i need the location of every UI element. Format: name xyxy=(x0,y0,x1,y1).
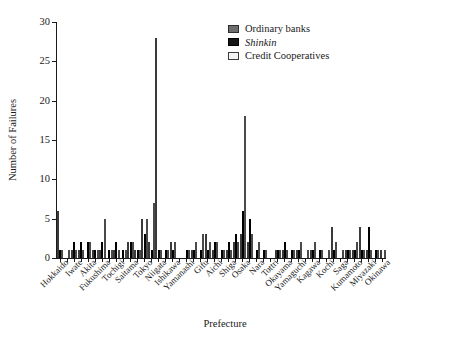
legend-label-ordinary-banks: Ordinary banks xyxy=(245,22,310,36)
bar xyxy=(212,250,214,258)
bar xyxy=(242,211,244,258)
bar xyxy=(174,242,176,258)
y-tick-label: 5 xyxy=(45,213,50,224)
bar xyxy=(92,250,94,258)
bar xyxy=(94,250,96,258)
bar xyxy=(265,250,267,258)
bar xyxy=(195,242,197,258)
bar xyxy=(61,250,63,258)
bar xyxy=(347,250,349,258)
bar-group xyxy=(56,22,386,258)
legend-item-shinkin: Shinkin xyxy=(228,36,329,50)
y-tick xyxy=(52,179,56,180)
bar xyxy=(375,250,377,258)
bar xyxy=(282,250,284,258)
bar xyxy=(368,227,370,258)
bar xyxy=(118,250,120,258)
bar xyxy=(146,219,148,258)
bar xyxy=(244,116,246,258)
plot-area: 051015202530 Number of Failures xyxy=(56,22,386,258)
bar xyxy=(165,250,167,258)
bar xyxy=(202,234,204,258)
bar xyxy=(188,250,190,258)
bar xyxy=(153,203,155,258)
bar xyxy=(104,219,106,258)
bar xyxy=(370,250,372,258)
bar xyxy=(298,250,300,258)
bar xyxy=(170,242,172,258)
x-tick-label-group: HokkaidoIwateAkitaFukushimaTochigiSaitam… xyxy=(56,258,386,259)
bar xyxy=(214,242,216,258)
legend-swatch-icon-shinkin xyxy=(228,38,239,46)
bar xyxy=(216,242,218,258)
bar xyxy=(122,250,124,258)
y-tick xyxy=(52,101,56,102)
bar xyxy=(115,242,117,258)
bar xyxy=(113,250,115,258)
bar xyxy=(97,250,99,258)
bar xyxy=(328,250,330,258)
bar xyxy=(205,234,207,258)
bar xyxy=(380,250,382,258)
y-tick-label: 0 xyxy=(45,253,50,264)
bar xyxy=(207,250,209,258)
bar xyxy=(160,250,162,258)
bar xyxy=(158,250,160,258)
y-tick-label: 20 xyxy=(40,95,51,106)
bar xyxy=(59,250,61,258)
bar xyxy=(99,250,101,258)
bar xyxy=(310,250,312,258)
bar xyxy=(356,242,358,258)
x-axis-title: Prefecture xyxy=(0,318,450,329)
bar xyxy=(331,227,333,258)
bar xyxy=(228,242,230,258)
legend-label-shinkin: Shinkin xyxy=(245,36,277,50)
bar xyxy=(209,242,211,258)
figure-bar-chart-bank-failures: 051015202530 Number of Failures Hokkaido… xyxy=(0,0,450,349)
bar xyxy=(335,242,337,258)
bar xyxy=(279,250,281,258)
bar xyxy=(247,242,249,258)
y-tick xyxy=(52,22,56,23)
bar xyxy=(87,242,89,258)
bar xyxy=(312,250,314,258)
y-tick xyxy=(52,219,56,220)
bar xyxy=(191,250,193,258)
bar xyxy=(258,242,260,258)
bar xyxy=(319,250,321,258)
bar xyxy=(275,250,277,258)
bar xyxy=(354,250,356,258)
bar xyxy=(293,250,295,258)
bar xyxy=(57,211,59,258)
bar xyxy=(359,227,361,258)
bar xyxy=(80,242,82,258)
bar xyxy=(73,242,75,258)
bar xyxy=(223,250,225,258)
bar xyxy=(200,250,202,258)
bar xyxy=(78,250,80,258)
bar xyxy=(125,250,127,258)
bar xyxy=(235,234,237,258)
y-tick-label: 30 xyxy=(40,17,51,28)
bar xyxy=(134,250,136,258)
bar xyxy=(68,250,70,258)
bar xyxy=(307,250,309,258)
bar xyxy=(256,250,258,258)
bar xyxy=(321,250,323,258)
bar xyxy=(155,38,157,258)
bar xyxy=(251,234,253,258)
y-axis-title: Number of Failures xyxy=(7,99,18,181)
bar xyxy=(75,250,77,258)
bar xyxy=(352,250,354,258)
bar xyxy=(193,250,195,258)
bar xyxy=(82,250,84,258)
bar xyxy=(71,250,73,258)
bar xyxy=(377,250,379,258)
y-tick-label: 10 xyxy=(40,174,51,185)
bar xyxy=(132,242,134,258)
bar xyxy=(333,250,335,258)
bar xyxy=(314,242,316,258)
bar xyxy=(300,242,302,258)
bar xyxy=(363,250,365,258)
bar xyxy=(345,250,347,258)
